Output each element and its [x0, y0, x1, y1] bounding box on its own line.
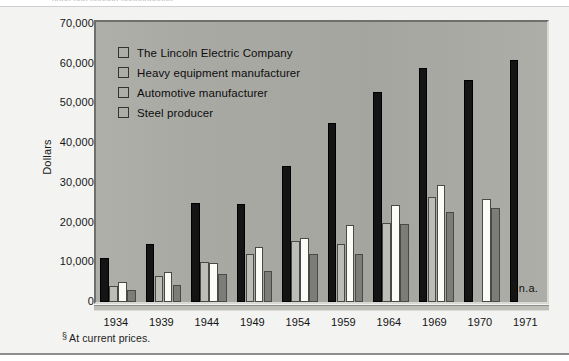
- bar-1954-series-2: [300, 238, 309, 302]
- bar-group-1971: [510, 22, 556, 302]
- bar-group-1939: [146, 22, 192, 302]
- bar-group-1954: [282, 22, 328, 302]
- y-axis-tick-30000: 30,000: [6, 176, 94, 188]
- bar-group-1944: [191, 22, 237, 302]
- y-axis-tick-0: 0: [6, 295, 94, 307]
- bar-group-1964: [373, 22, 419, 302]
- footnote-text: At current prices.: [69, 332, 150, 344]
- bar-1934-series-0: [100, 258, 109, 302]
- bar-1970-series-0: [464, 80, 473, 302]
- x-axis-label-1939: 1939: [149, 316, 174, 328]
- x-axis-label-1949: 1949: [240, 316, 265, 328]
- bar-1949-series-3: [264, 271, 273, 302]
- bar-1964-series-0: [373, 92, 382, 302]
- bar-1944-series-3: [218, 274, 227, 302]
- bar-1969-series-0: [419, 68, 428, 302]
- x-axis-label-1971: 1971: [513, 316, 538, 328]
- bar-1969-series-1: [428, 197, 437, 302]
- x-axis-label-1964: 1964: [376, 316, 401, 328]
- bar-group-1970: [464, 22, 510, 302]
- bar-1944-series-1: [200, 262, 209, 302]
- y-axis-tick-70000: 70,000: [6, 17, 94, 29]
- y-axis-tick-60000: 60,000: [6, 57, 94, 69]
- y-axis-tick-20000: 20,000: [6, 216, 94, 228]
- y-axis-tick-10000: 10,000: [6, 255, 94, 267]
- bar-1934-series-2: [118, 282, 127, 302]
- y-axis: Dollars 70,00060,00050,00040,00030,00020…: [0, 20, 94, 304]
- bar-1954-series-3: [309, 254, 318, 302]
- y-axis-tick-50000: 50,000: [6, 96, 94, 108]
- x-axis-label-1959: 1959: [331, 316, 356, 328]
- x-axis-baseline: [94, 305, 549, 311]
- bar-1959-series-1: [337, 244, 346, 302]
- footnote-marker: §: [62, 331, 67, 341]
- bar-group-1949: [237, 22, 283, 302]
- bar-1954-series-0: [282, 166, 291, 302]
- bar-1969-series-2: [437, 185, 446, 302]
- na-annotation: n.a.: [519, 282, 538, 294]
- bar-1959-series-0: [328, 123, 337, 303]
- bar-1939-series-3: [173, 285, 182, 302]
- footnote: §At current prices.: [62, 331, 150, 344]
- x-axis-label-1970: 1970: [467, 316, 492, 328]
- bar-groups: [96, 22, 547, 302]
- bar-1971-series-0: [510, 60, 519, 302]
- bar-1949-series-0: [237, 204, 246, 302]
- bar-group-1969: [419, 22, 465, 302]
- x-axis-label-1954: 1954: [285, 316, 310, 328]
- x-axis-label-1969: 1969: [422, 316, 447, 328]
- bar-group-1934: [100, 22, 146, 302]
- clipped-header-text: xxxx xxx xxxxxx xxxxxxxxxxx: [52, 0, 173, 3]
- bar-1954-series-1: [291, 241, 300, 302]
- x-axis-label-1934: 1934: [103, 316, 128, 328]
- bar-1970-series-3: [491, 208, 500, 302]
- bar-1939-series-0: [146, 244, 155, 302]
- bar-1949-series-2: [255, 247, 264, 302]
- bar-1939-series-2: [164, 272, 173, 302]
- bar-1944-series-2: [209, 263, 218, 302]
- bar-1964-series-3: [400, 224, 409, 302]
- bar-1964-series-1: [382, 223, 391, 302]
- bar-1934-series-3: [127, 290, 136, 302]
- bar-1939-series-1: [155, 276, 164, 302]
- plot-area: The Lincoln Electric Company Heavy equip…: [94, 20, 549, 304]
- x-axis-label-1944: 1944: [194, 316, 219, 328]
- y-axis-tick-40000: 40,000: [6, 136, 94, 148]
- bar-1969-series-3: [446, 212, 455, 302]
- bar-1959-series-2: [346, 225, 355, 302]
- bar-group-1959: [328, 22, 374, 302]
- bar-1964-series-2: [391, 205, 400, 302]
- figure-card: Dollars 70,00060,00050,00040,00030,00020…: [0, 6, 569, 355]
- bar-1959-series-3: [355, 254, 364, 302]
- bar-1949-series-1: [246, 254, 255, 302]
- bar-1944-series-0: [191, 203, 200, 302]
- bar-1970-series-2: [482, 199, 491, 302]
- bar-1934-series-1: [109, 286, 118, 302]
